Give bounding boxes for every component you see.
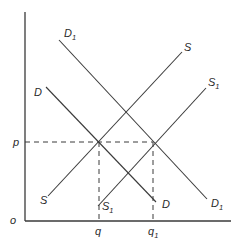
label-s-top: S — [184, 41, 192, 53]
quantity-label-q1: q1 — [148, 225, 158, 240]
label-s-bottom: S — [40, 194, 48, 206]
supply-curve-s — [48, 52, 182, 196]
label-d1-top: D1 — [64, 27, 76, 42]
price-label-p: p — [12, 136, 19, 148]
quantity-label-q: q — [95, 225, 102, 237]
label-s1-bottom: S1 — [102, 200, 114, 215]
demand-curve-d1 — [59, 40, 207, 199]
label-d1-bottom: D1 — [211, 197, 223, 212]
label-d-bottom: D — [162, 198, 170, 210]
supply-curve-s1 — [98, 88, 206, 206]
origin-label: o — [10, 214, 16, 226]
demand-curve-d — [46, 87, 156, 202]
label-d-top: D — [34, 86, 42, 98]
label-s1-top: S1 — [208, 76, 220, 91]
supply-demand-diagram: D1 D S S1 S S1 D D1 o p q q1 — [0, 0, 238, 249]
